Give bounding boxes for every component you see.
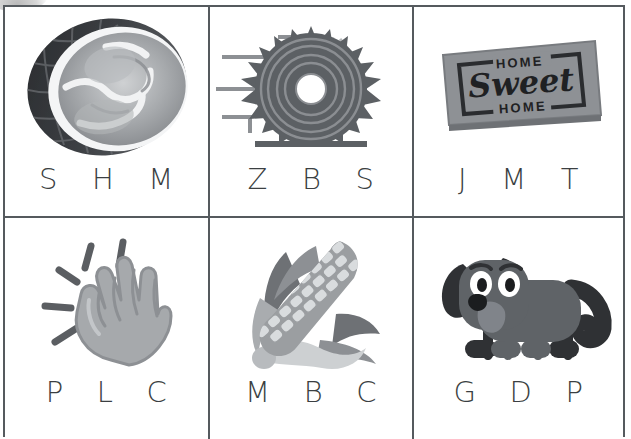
choice-letter[interactable]: M: [245, 378, 271, 407]
choice-letter[interactable]: D: [510, 378, 533, 407]
choice-letter[interactable]: G: [454, 378, 477, 407]
choice-letter[interactable]: S: [39, 165, 58, 194]
worksheet-grid: S H M: [3, 5, 625, 437]
svg-text:Sweet: Sweet: [466, 60, 575, 105]
choice-letter[interactable]: C: [356, 378, 377, 407]
answer-choices: J M T: [414, 165, 623, 194]
worksheet-cell-corn-cob[interactable]: M B C: [210, 218, 414, 439]
worksheet-cell-doormat[interactable]: HOME HOME Sweet J M T: [414, 7, 623, 218]
snail-shell-icon: [5, 7, 208, 165]
answer-choices: G D P: [414, 378, 623, 407]
worksheet-cell-snail-shell[interactable]: S H M: [5, 7, 210, 218]
answer-choices: M B C: [210, 378, 412, 407]
answer-choices: S H M: [5, 165, 208, 194]
choice-letter[interactable]: P: [46, 378, 64, 407]
choice-letter[interactable]: C: [146, 378, 167, 407]
choice-letter[interactable]: J: [458, 165, 467, 194]
circular-saw-blade-icon: [210, 7, 412, 165]
dog-icon: [414, 218, 623, 378]
choice-letter[interactable]: M: [501, 165, 527, 194]
choice-letter[interactable]: T: [561, 165, 579, 194]
worksheet-cell-dog[interactable]: G D P: [414, 218, 623, 439]
answer-choices: P L C: [5, 378, 208, 407]
choice-letter[interactable]: B: [302, 165, 322, 194]
choice-letter[interactable]: P: [565, 378, 583, 407]
clapping-hand-icon: [5, 218, 208, 378]
worksheet-cell-clapping-hand[interactable]: P L C: [5, 218, 210, 439]
worksheet-cell-saw-blade[interactable]: Z B S: [210, 7, 414, 218]
answer-choices: Z B S: [210, 165, 412, 194]
choice-letter[interactable]: B: [304, 378, 324, 407]
choice-letter[interactable]: M: [148, 165, 174, 194]
corn-cob-icon: [210, 218, 412, 378]
choice-letter[interactable]: L: [97, 378, 114, 407]
choice-letter[interactable]: Z: [248, 165, 268, 194]
choice-letter[interactable]: S: [355, 165, 374, 194]
choice-letter[interactable]: H: [92, 165, 114, 194]
welcome-doormat-icon: HOME HOME Sweet: [414, 7, 623, 165]
